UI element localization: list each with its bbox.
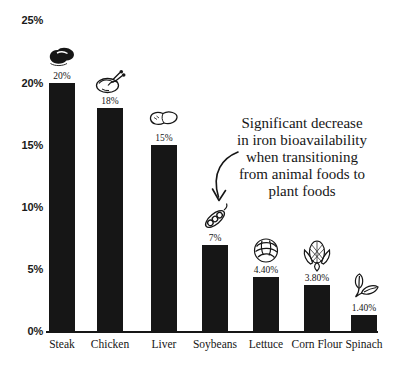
bar-liver: [151, 145, 177, 332]
steak-icon: [46, 45, 78, 70]
annotation-line: from animal foods to: [203, 166, 401, 183]
annotation-line: Significant decrease: [203, 115, 401, 132]
bar-value-label: 20%: [53, 71, 70, 81]
bar-steak: [49, 83, 75, 332]
corn-cob-icon: [302, 240, 332, 272]
bar-corn-flour: [304, 285, 330, 332]
annotation-line: in iron bioavailability: [203, 132, 401, 149]
y-tick-25: 25%: [22, 14, 43, 26]
bar-value-label: 7%: [209, 233, 222, 243]
bar-spinach: [351, 315, 377, 332]
bar-chicken: [97, 108, 123, 332]
bar-column-chicken: 18% Chicken: [80, 68, 140, 332]
bar-value-label: 18%: [101, 96, 118, 106]
soybean-pod-icon: [200, 202, 230, 232]
chicken-icon: [94, 68, 126, 95]
bar-value-label: 1.40%: [352, 303, 377, 313]
bar-value-label: 4.40%: [254, 265, 279, 275]
annotation-text: Significant decrease in iron bioavailabi…: [203, 115, 401, 200]
x-axis-label-chicken: Chicken: [80, 338, 140, 350]
bar-soybeans: [202, 245, 228, 332]
x-axis-label-spinach: Spinach: [334, 338, 394, 350]
bar-column-spinach: 1.40% Spinach: [334, 272, 394, 332]
lettuce-icon: [251, 236, 281, 264]
annotation-line: when transitioning: [203, 149, 401, 166]
liver-icon: [148, 108, 180, 132]
bar-lettuce: [253, 277, 279, 332]
bar-value-label: 15%: [155, 133, 172, 143]
bar-value-label: 3.80%: [305, 273, 330, 283]
iron-bioavailability-bar-chart: 0% 5% 10% 15% 20% 25% 20% Steak 18% Chic…: [0, 0, 402, 369]
spinach-leaves-icon: [348, 272, 380, 302]
annotation-line: plant foods: [203, 183, 401, 200]
